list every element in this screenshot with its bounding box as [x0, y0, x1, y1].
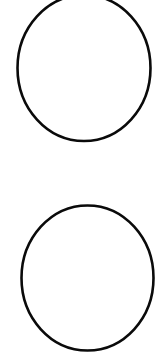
shapes-layer	[0, 0, 164, 356]
top-oval	[18, 0, 151, 141]
diagram-canvas	[0, 0, 164, 356]
bottom-oval	[22, 206, 154, 351]
